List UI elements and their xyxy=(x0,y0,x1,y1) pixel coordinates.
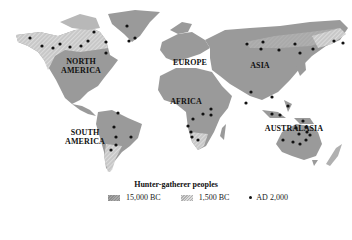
legend-item-ad2000: AD 2,000 xyxy=(249,193,288,202)
label-south-america-line2: AMERICA xyxy=(60,137,110,146)
label-australasia: AUSTRALASIA xyxy=(264,124,324,133)
southeast-asia-islands xyxy=(262,100,314,124)
label-africa: AFRICA xyxy=(166,97,206,106)
legend-label-1500bc: 1,500 BC xyxy=(199,193,230,202)
label-europe: EUROPE xyxy=(170,58,210,67)
asia-landmass xyxy=(205,20,348,100)
label-north-america-line1: NORTH xyxy=(56,57,106,66)
label-asia: ASIA xyxy=(240,61,280,70)
label-south-america: SOUTH AMERICA xyxy=(60,128,110,146)
legend-item-1500bc: 1,500 BC xyxy=(181,193,230,202)
label-south-america-line1: SOUTH xyxy=(60,128,110,137)
label-north-america: NORTH AMERICA xyxy=(56,57,106,75)
legend-label-ad2000: AD 2,000 xyxy=(256,193,288,202)
legend: 15,000 BC 1,500 BC AD 2,000 xyxy=(108,193,308,202)
europe-landmass xyxy=(160,22,210,62)
africa-landmass xyxy=(158,68,232,150)
hatched-grey-swatch-icon xyxy=(181,195,193,201)
black-dot-icon xyxy=(249,196,252,199)
label-north-america-line2: AMERICA xyxy=(56,66,106,75)
legend-item-15000bc: 15,000 BC xyxy=(108,193,161,202)
legend-label-15000bc: 15,000 BC xyxy=(126,193,161,202)
solid-grey-swatch-icon xyxy=(108,195,120,201)
legend-title: Hunter-gatherer peoples xyxy=(0,180,352,189)
